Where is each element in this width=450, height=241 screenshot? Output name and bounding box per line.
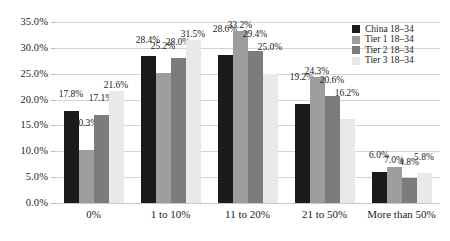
bar[interactable]: 4.8% xyxy=(402,178,417,203)
legend-label: Tier 2 18–34 xyxy=(365,46,414,56)
y-axis: 35.0%30.0%25.0%20.0%15.0%10.0%5.0%0.0% xyxy=(0,0,52,241)
bar-slot: 31.5% xyxy=(186,22,201,203)
x-axis-tick-label: 11 to 20% xyxy=(209,208,286,234)
bar[interactable]: 29.4% xyxy=(248,51,263,203)
bar-group: 28.6%33.2%29.4%25.0% xyxy=(209,22,286,203)
bar[interactable]: 16.2% xyxy=(340,119,355,203)
bar-slot: 20.6% xyxy=(325,22,340,203)
bar-slot: 33.2% xyxy=(233,22,248,203)
legend-label: Tier 1 18–34 xyxy=(365,35,414,45)
bar[interactable]: 20.6% xyxy=(325,96,340,203)
legend-color-swatch xyxy=(352,46,360,54)
legend-item[interactable]: Tier 1 18–34 xyxy=(352,35,414,46)
bar-value-label: 21.6% xyxy=(104,81,129,91)
x-axis: 0%1 to 10%11 to 20%21 to 50%More than 50… xyxy=(55,208,440,234)
bar-slot: 28.0% xyxy=(171,22,186,203)
y-axis-tick-label: 20.0% xyxy=(20,94,48,105)
y-axis-tick-label: 15.0% xyxy=(20,120,48,131)
y-axis-tick-mark xyxy=(51,203,55,204)
bar-slot: 17.8% xyxy=(64,22,79,203)
bar-group: 17.8%10.3%17.1%21.6% xyxy=(55,22,132,203)
bar[interactable]: 7.0% xyxy=(387,167,402,203)
bar[interactable]: 28.0% xyxy=(171,58,186,203)
y-axis-tick-label: 5.0% xyxy=(26,172,48,183)
bar-group: 28.4%25.2%28.0%31.5% xyxy=(132,22,209,203)
legend-item[interactable]: Tier 3 18–34 xyxy=(352,56,414,67)
x-axis-tick-label: 21 to 50% xyxy=(286,208,363,234)
bar[interactable]: 17.1% xyxy=(94,115,109,203)
bar-value-label: 25.0% xyxy=(258,43,283,53)
bar-slot: 25.0% xyxy=(263,22,278,203)
chart-legend: China 18–34Tier 1 18–34Tier 2 18–34Tier … xyxy=(352,24,414,66)
bar[interactable]: 10.3% xyxy=(79,150,94,203)
bar[interactable]: 28.6% xyxy=(218,55,233,203)
y-axis-tick-label: 25.0% xyxy=(20,68,48,79)
legend-color-swatch xyxy=(352,57,360,65)
bar[interactable]: 28.4% xyxy=(141,56,156,203)
bar[interactable]: 31.5% xyxy=(186,40,201,203)
legend-label: Tier 3 18–34 xyxy=(365,56,414,66)
y-axis-tick-label: 30.0% xyxy=(20,43,48,54)
bar-value-label: 31.5% xyxy=(181,30,206,40)
bar[interactable]: 25.0% xyxy=(263,74,278,203)
legend-color-swatch xyxy=(352,25,360,33)
bar[interactable]: 21.6% xyxy=(109,91,124,203)
bar-slot: 24.3% xyxy=(310,22,325,203)
bar-slot: 10.3% xyxy=(79,22,94,203)
bar-value-label: 5.8% xyxy=(414,153,434,163)
bar[interactable]: 25.2% xyxy=(156,73,171,203)
bar-value-label: 16.2% xyxy=(335,89,360,99)
x-axis-tick-label: 0% xyxy=(55,208,132,234)
bar-slot: 17.1% xyxy=(94,22,109,203)
x-axis-tick-label: More than 50% xyxy=(363,208,440,234)
y-axis-tick-label: 35.0% xyxy=(20,17,48,28)
bar-slot: 28.6% xyxy=(218,22,233,203)
y-axis-tick-label: 10.0% xyxy=(20,146,48,157)
legend-item[interactable]: China 18–34 xyxy=(352,24,414,35)
bar[interactable]: 33.2% xyxy=(233,31,248,203)
bar-chart: 35.0%30.0%25.0%20.0%15.0%10.0%5.0%0.0% 1… xyxy=(0,0,450,241)
bar-slot: 21.6% xyxy=(109,22,124,203)
bar[interactable]: 5.8% xyxy=(417,173,432,203)
x-axis-tick-label: 1 to 10% xyxy=(132,208,209,234)
bar-slot: 19.2% xyxy=(295,22,310,203)
bar-slot: 5.8% xyxy=(417,22,432,203)
bar[interactable]: 24.3% xyxy=(310,77,325,203)
legend-label: China 18–34 xyxy=(365,25,414,35)
legend-color-swatch xyxy=(352,36,360,44)
bar[interactable]: 6.0% xyxy=(372,172,387,203)
bar-slot: 25.2% xyxy=(156,22,171,203)
bar[interactable]: 19.2% xyxy=(295,104,310,203)
y-axis-tick-label: 0.0% xyxy=(26,198,48,209)
legend-item[interactable]: Tier 2 18–34 xyxy=(352,45,414,56)
axis-baseline xyxy=(55,203,440,204)
